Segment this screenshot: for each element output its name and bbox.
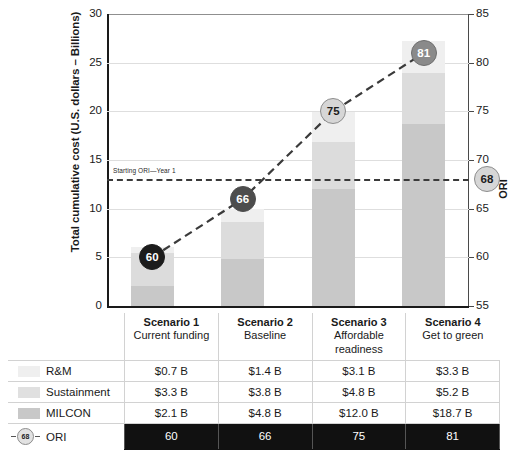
ori-marker-scenario-2: 66 bbox=[230, 186, 256, 212]
y-tick-label-right: 85 bbox=[476, 8, 500, 20]
table-row: 68ORI60667581 bbox=[8, 424, 500, 450]
column-subtitle: Current funding bbox=[127, 329, 216, 342]
y-tick-mark-right bbox=[469, 257, 474, 258]
y-tick-label-left: 25 bbox=[78, 57, 102, 69]
column-name: Scenario 3 bbox=[315, 316, 404, 329]
y-tick-label-left: 5 bbox=[78, 252, 102, 264]
table-header-row: Scenario 1 Current funding Scenario 2 Ba… bbox=[8, 313, 500, 361]
circle-marker: 68 bbox=[17, 428, 34, 445]
y-tick-mark-right bbox=[469, 63, 474, 64]
column-name: Scenario 2 bbox=[221, 316, 310, 329]
dash-right bbox=[35, 436, 40, 437]
y-tick-label-left: 15 bbox=[78, 154, 102, 166]
table-row: MILCON$2.1 B$4.8 B$12.0 B$18.7 B bbox=[8, 403, 500, 424]
ori-marker-scenario-3: 75 bbox=[320, 98, 346, 124]
y-tick-mark-right bbox=[469, 160, 474, 161]
table-cell: $3.3 B bbox=[125, 382, 219, 403]
header-corner-blank bbox=[8, 313, 125, 361]
ori-legend-marker-icon: 68 bbox=[11, 428, 40, 445]
scenario-data-table: Scenario 1 Current funding Scenario 2 Ba… bbox=[8, 313, 500, 450]
data-table-region: Scenario 1 Current funding Scenario 2 Ba… bbox=[8, 313, 500, 450]
y-tick-label-right: 60 bbox=[476, 252, 500, 264]
plot-area: 051015202530 55606570758085 Starting ORI… bbox=[107, 14, 469, 308]
legend-swatch-r-m bbox=[18, 366, 40, 377]
table-body: R&M$0.7 B$1.4 B$3.1 B$3.3 BSustainment$3… bbox=[8, 361, 500, 450]
chart-region: Total cumulative cost (U.S. dollars – Bi… bbox=[0, 0, 526, 318]
table-cell: $12.0 B bbox=[312, 403, 406, 424]
row-label: R&M bbox=[46, 365, 122, 377]
table-cell: $4.8 B bbox=[218, 403, 312, 424]
table-cell: 75 bbox=[312, 424, 406, 450]
column-name: Scenario 4 bbox=[408, 316, 497, 329]
table-cell: $5.2 B bbox=[406, 382, 500, 403]
y-tick-mark-right bbox=[469, 209, 474, 210]
ori-axis-marker: 68 bbox=[474, 166, 500, 192]
table-cell: $3.8 B bbox=[218, 382, 312, 403]
column-subtitle: Get to green bbox=[408, 329, 497, 342]
dash-left bbox=[11, 436, 16, 437]
legend-swatch-milcon bbox=[18, 408, 40, 419]
row-label: ORI bbox=[46, 431, 122, 443]
table-row: R&M$0.7 B$1.4 B$3.1 B$3.3 B bbox=[8, 361, 500, 382]
figure-container: Total cumulative cost (U.S. dollars – Bi… bbox=[0, 0, 526, 456]
table-cell: $0.7 B bbox=[125, 361, 219, 382]
column-name: Scenario 1 bbox=[127, 316, 216, 329]
y-axis-title-left: Total cumulative cost (U.S. dollars – Bi… bbox=[69, 0, 81, 277]
y-tick-label-left: 30 bbox=[78, 8, 102, 20]
table-cell: 66 bbox=[218, 424, 312, 450]
column-header-scenario-3: Scenario 3 Affordable readiness bbox=[312, 313, 406, 361]
y-tick-label-right: 80 bbox=[476, 57, 500, 69]
table-cell: 60 bbox=[125, 424, 219, 450]
y-tick-mark-right bbox=[469, 111, 474, 112]
row-label-cell: R&M bbox=[8, 361, 125, 382]
column-header-scenario-1: Scenario 1 Current funding bbox=[125, 313, 219, 361]
y-tick-label-right: 70 bbox=[476, 154, 500, 166]
table-cell: $3.3 B bbox=[406, 361, 500, 382]
column-header-scenario-4: Scenario 4 Get to green bbox=[406, 313, 500, 361]
row-label-cell: MILCON bbox=[8, 403, 125, 424]
ori-marker-scenario-1: 60 bbox=[139, 244, 165, 270]
y-tick-label-left: 10 bbox=[78, 203, 102, 215]
table-cell: $4.8 B bbox=[312, 382, 406, 403]
y-tick-mark-right bbox=[469, 14, 474, 15]
ori-marker-scenario-4: 81 bbox=[411, 40, 437, 66]
table-cell: 81 bbox=[406, 424, 500, 450]
legend-swatch-sustainment bbox=[18, 387, 40, 398]
row-label: Sustainment bbox=[46, 386, 122, 398]
table-cell: $1.4 B bbox=[218, 361, 312, 382]
column-subtitle: Baseline bbox=[221, 329, 310, 342]
y-tick-label-right: 55 bbox=[476, 300, 500, 312]
y-tick-label-left: 0 bbox=[78, 300, 102, 312]
column-subtitle: Affordable readiness bbox=[315, 329, 404, 356]
table-cell: $2.1 B bbox=[125, 403, 219, 424]
y-tick-label-right: 75 bbox=[476, 106, 500, 118]
table-row: Sustainment$3.3 B$3.8 B$4.8 B$5.2 B bbox=[8, 382, 500, 403]
row-label-cell: Sustainment bbox=[8, 382, 125, 403]
column-header-scenario-2: Scenario 2 Baseline bbox=[218, 313, 312, 361]
table-cell: $18.7 B bbox=[406, 403, 500, 424]
row-label-cell: 68ORI bbox=[8, 424, 125, 450]
table-cell: $3.1 B bbox=[312, 361, 406, 382]
y-tick-label-left: 20 bbox=[78, 106, 102, 118]
row-label: MILCON bbox=[46, 407, 122, 419]
y-tick-mark-right bbox=[469, 306, 474, 307]
y-tick-label-right: 65 bbox=[476, 203, 500, 215]
